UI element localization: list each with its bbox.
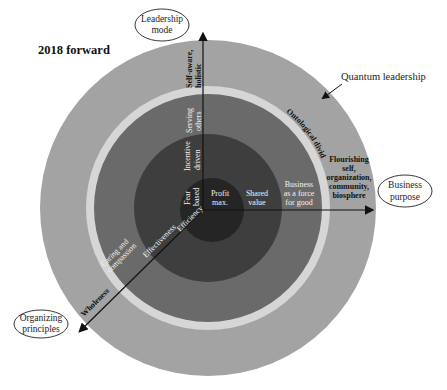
svg-text:Organizing: Organizing: [20, 313, 63, 323]
diagram-title: 2018 forward: [38, 43, 110, 57]
svg-text:max.: max.: [212, 198, 228, 207]
label-driven: driven: [193, 150, 202, 170]
axis-label-leadership-mode: Leadership mode: [135, 9, 189, 41]
svg-text:Business: Business: [388, 180, 422, 190]
svg-text:Shared: Shared: [246, 189, 268, 198]
callout-quantum-leadership: Quantum leadership: [341, 71, 426, 82]
axis-label-organizing-principles: Organizing principles: [14, 310, 68, 338]
label-others: others: [194, 111, 203, 131]
svg-text:purpose: purpose: [390, 192, 420, 202]
label-holistic: holistic: [194, 63, 203, 88]
svg-text:Business: Business: [285, 180, 313, 189]
svg-text:value: value: [248, 198, 266, 207]
label-fear: Fear: [183, 190, 192, 205]
svg-text:Flourishing: Flourishing: [329, 155, 369, 164]
label-incentive: Incentive: [183, 141, 192, 171]
leadership-diagram: 2018 forward Leadership mode Business pu…: [0, 0, 447, 390]
svg-text:biosphere: biosphere: [332, 191, 366, 200]
svg-text:organization,: organization,: [326, 173, 371, 182]
svg-text:as a force: as a force: [284, 189, 315, 198]
label-based: based: [192, 188, 201, 206]
axis-label-business-purpose: Business purpose: [378, 175, 432, 207]
label-serving: Serving: [185, 108, 194, 133]
svg-text:principles: principles: [22, 324, 60, 334]
svg-text:for good: for good: [285, 198, 312, 207]
svg-text:Profit: Profit: [211, 189, 230, 198]
svg-text:Leadership: Leadership: [141, 14, 183, 24]
label-self-aware: Self-aware,: [185, 50, 194, 88]
svg-text:mode: mode: [151, 25, 172, 35]
svg-text:community,: community,: [329, 182, 369, 191]
svg-text:self,: self,: [342, 164, 356, 173]
